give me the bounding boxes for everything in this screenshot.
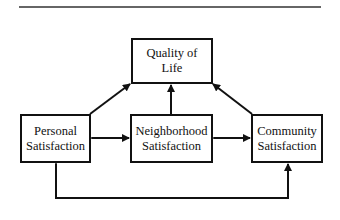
diagram-connectors <box>0 0 340 220</box>
node-neighborhood-line2: Satisfaction <box>135 139 207 154</box>
node-quality-of-life: Quality of Life <box>131 38 213 84</box>
node-community-line1: Community <box>257 124 317 139</box>
node-community-line2: Satisfaction <box>257 139 317 154</box>
node-neighborhood-line1: Neighborhood <box>135 124 207 139</box>
node-neighborhood-satisfaction: Neighborhood Satisfaction <box>130 114 213 163</box>
arrow-personal-community <box>56 164 288 198</box>
node-community-satisfaction: Community Satisfaction <box>251 114 323 163</box>
arrow-community-to-quality <box>213 84 252 114</box>
node-quality-of-life-line2: Life <box>146 61 197 76</box>
node-personal-satisfaction: Personal Satisfaction <box>20 114 91 163</box>
node-personal-line1: Personal <box>26 124 85 139</box>
node-personal-line2: Satisfaction <box>26 139 85 154</box>
node-quality-of-life-line1: Quality of <box>146 46 197 61</box>
arrow-personal-to-quality <box>90 84 130 114</box>
